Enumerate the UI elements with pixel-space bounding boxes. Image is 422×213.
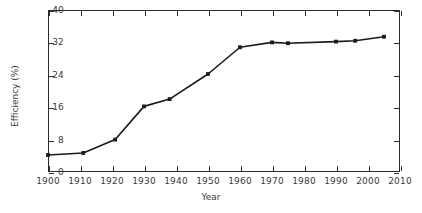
y-tick-label-24: 24 — [42, 70, 64, 80]
y-axis-title: Efficiency (%) — [10, 51, 20, 141]
x-axis-title: Year — [0, 192, 422, 202]
efficiency-markers — [46, 35, 386, 157]
x-tick-label-1950: 1950 — [196, 176, 220, 186]
data-point — [353, 39, 357, 43]
y-tick-label-40: 40 — [42, 5, 64, 15]
x-tick-label-2010: 2010 — [388, 176, 412, 186]
data-point — [168, 97, 172, 101]
data-point — [113, 138, 117, 142]
x-tick-label-1910: 1910 — [68, 176, 92, 186]
y-tick-label-0: 0 — [42, 167, 64, 177]
x-tick-label-1970: 1970 — [260, 176, 284, 186]
data-point — [238, 45, 242, 49]
x-tick-label-1930: 1930 — [132, 176, 156, 186]
x-tick-label-1920: 1920 — [100, 176, 124, 186]
data-point — [382, 35, 386, 39]
y-tick-label-32: 32 — [42, 37, 64, 47]
data-point — [206, 72, 210, 76]
data-point — [46, 153, 50, 157]
chart-figure: 1900191019201930194019501960197019801990… — [0, 0, 422, 213]
x-tick-label-1980: 1980 — [292, 176, 316, 186]
data-point — [334, 40, 338, 44]
data-point — [142, 104, 146, 108]
x-tick-label-1940: 1940 — [164, 176, 188, 186]
x-tick-label-2000: 2000 — [356, 176, 380, 186]
y-tick-label-16: 16 — [42, 102, 64, 112]
x-tick-label-1990: 1990 — [324, 176, 348, 186]
x-tick-label-1960: 1960 — [228, 176, 252, 186]
data-point — [286, 41, 290, 45]
efficiency-line — [48, 37, 384, 155]
data-point — [81, 151, 85, 155]
x-tick-label-1900: 1900 — [36, 176, 60, 186]
y-tick-label-8: 8 — [42, 135, 64, 145]
data-point — [270, 41, 274, 45]
